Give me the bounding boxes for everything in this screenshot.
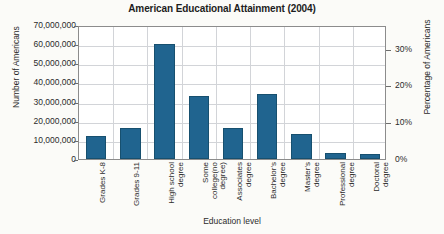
bar bbox=[189, 96, 210, 159]
chart-figure: American Educational Attainment (2004) 0… bbox=[0, 0, 444, 234]
x-axis-tick-label: Master's degree bbox=[304, 162, 321, 214]
x-axis-tick-label: Grades K-8 bbox=[99, 162, 108, 214]
bar bbox=[223, 128, 244, 159]
bar bbox=[360, 154, 381, 159]
bar bbox=[86, 136, 107, 159]
y-axis-right-tick-label: 0% bbox=[395, 155, 407, 164]
x-axis-tick-label: High school degree bbox=[168, 162, 185, 214]
x-axis-tick-label: Professional degree bbox=[339, 162, 356, 214]
y-axis-left-title: Number of Americans bbox=[11, 7, 21, 127]
y-axis-tick-mark bbox=[74, 160, 78, 161]
x-axis-tick-label: Bachelor's degree bbox=[270, 162, 287, 214]
chart-title: American Educational Attainment (2004) bbox=[0, 3, 444, 14]
y-axis-tick-label: 10,000,000 bbox=[2, 136, 76, 145]
y-axis-right-tick-mark bbox=[386, 123, 391, 124]
x-axis-tick-label: Doctoral degree bbox=[373, 162, 390, 214]
y-axis-right-title: Percentage of Americans bbox=[422, 2, 432, 132]
x-axis-tick-label: Some college(no degree) bbox=[202, 162, 228, 214]
y-axis-right-tick-label: 10% bbox=[395, 118, 412, 127]
y-axis-right-ticks: 0%10%20%30% bbox=[386, 26, 444, 160]
y-axis-right-tick-label: 30% bbox=[395, 45, 412, 54]
y-axis-tick-label: 0 bbox=[2, 155, 76, 164]
y-axis-right-tick-mark bbox=[386, 50, 391, 51]
bar bbox=[291, 134, 312, 159]
y-axis-right-tick-mark bbox=[386, 86, 391, 87]
bar-series bbox=[79, 27, 385, 159]
bar bbox=[154, 44, 175, 159]
bar bbox=[120, 128, 141, 159]
bar bbox=[257, 94, 278, 159]
x-axis-tick-label: Associates degree bbox=[236, 162, 253, 214]
bar bbox=[325, 153, 346, 159]
x-axis-title: Education level bbox=[78, 216, 386, 226]
y-axis-right-tick-label: 20% bbox=[395, 81, 412, 90]
x-axis-tick-label: Grades 9-11 bbox=[133, 162, 142, 214]
plot-area bbox=[78, 26, 386, 160]
x-axis-tick-labels: Grades K-8Grades 9-11High school degreeS… bbox=[78, 162, 386, 214]
